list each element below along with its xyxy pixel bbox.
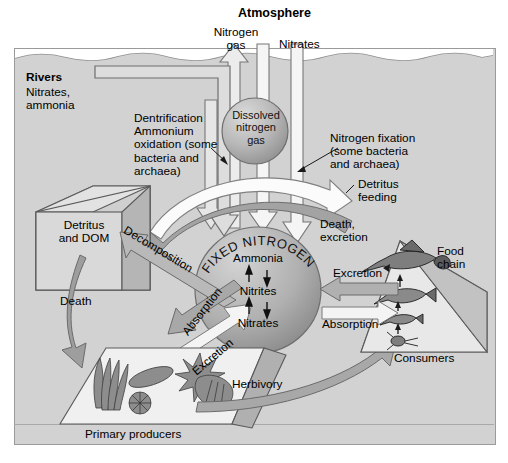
- consumers-label: Consumers: [394, 352, 454, 365]
- primary-producers-label: Primary producers: [85, 428, 181, 441]
- absorption-right-label: Absorption: [322, 318, 378, 331]
- food-chain-label: Food chain: [437, 245, 465, 271]
- excretion-right-label: Excretion: [333, 267, 382, 280]
- fixed-nitrogen-inner-arrows: [0, 0, 508, 463]
- herbivory-label: Herbivory: [232, 378, 282, 391]
- nitrogen-cycle-diagram: Atmosphere Nitrogen gas Nitrates Dissolv…: [0, 0, 508, 463]
